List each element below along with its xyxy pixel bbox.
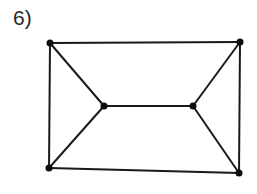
edge-top-right-inner-right bbox=[193, 42, 240, 106]
edge-top-left-top-right bbox=[50, 42, 240, 43]
graph-diagram bbox=[0, 0, 257, 194]
edge-bottom-left-inner-left bbox=[49, 106, 104, 168]
edge-top-left-bottom-left bbox=[49, 43, 50, 168]
vertex-inner-left bbox=[101, 103, 108, 110]
vertex-bottom-right bbox=[236, 170, 243, 177]
edge-top-left-inner-left bbox=[50, 43, 104, 106]
vertex-bottom-left bbox=[46, 165, 53, 172]
vertex-top-right bbox=[237, 39, 244, 46]
graph-edges bbox=[49, 42, 240, 173]
edge-top-right-bottom-right bbox=[239, 42, 240, 173]
edge-bottom-left-bottom-right bbox=[49, 168, 239, 173]
vertex-top-left bbox=[47, 40, 54, 47]
vertex-inner-right bbox=[190, 103, 197, 110]
edge-bottom-right-inner-right bbox=[193, 106, 239, 173]
graph-vertices bbox=[46, 39, 244, 177]
